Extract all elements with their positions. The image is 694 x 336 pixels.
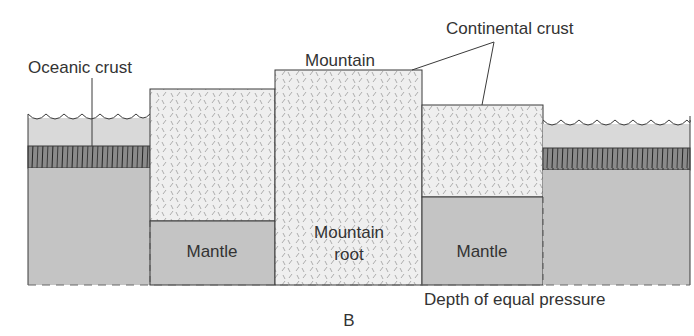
mountain-label: Mountain xyxy=(305,51,375,70)
left-oceanic-crust xyxy=(28,146,150,168)
mantle-right-label: Mantle xyxy=(456,242,507,261)
right-mantle xyxy=(543,170,690,285)
continental-crust-leader-1 xyxy=(412,42,494,70)
right-ocean-column xyxy=(543,116,690,285)
continental-crust-label: Continental crust xyxy=(446,19,574,38)
left-water xyxy=(28,118,150,146)
right-oceanic-crust xyxy=(543,148,690,170)
panel-label: B xyxy=(343,311,354,330)
continental-block-right xyxy=(422,105,543,197)
right-water xyxy=(543,124,690,148)
continental-crust-leader-2 xyxy=(482,42,494,105)
isostasy-diagram: Oceanic crust Mountain Continental crust… xyxy=(0,0,694,336)
left-mantle xyxy=(28,168,150,285)
mountain-root-label-2: root xyxy=(334,245,364,264)
continental-block-left xyxy=(150,89,275,221)
mantle-left-label: Mantle xyxy=(186,242,237,261)
mantle-right xyxy=(422,197,543,285)
depth-label: Depth of equal pressure xyxy=(424,290,605,309)
mountain-root-label-1: Mountain xyxy=(314,223,384,242)
oceanic-crust-label: Oceanic crust xyxy=(28,58,132,77)
left-ocean-column xyxy=(28,114,150,285)
